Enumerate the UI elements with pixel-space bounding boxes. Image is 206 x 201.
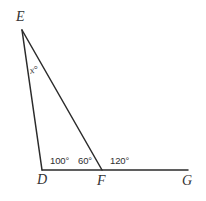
angle-label-at-f-exterior: 120° (110, 156, 129, 166)
angle-label-at-f-interior: 60° (78, 156, 92, 166)
vertex-label-D: D (37, 173, 47, 187)
segment-EF (22, 30, 102, 170)
vertex-label-F: F (97, 174, 106, 188)
vertex-label-G: G (182, 174, 192, 188)
geometry-canvas (0, 0, 206, 201)
angle-label-at-d: 100° (50, 156, 69, 166)
geometry-figure: E D F G 100° 60° 120° x° (0, 0, 206, 201)
vertex-label-E: E (16, 10, 25, 24)
segment-ED (22, 30, 42, 170)
